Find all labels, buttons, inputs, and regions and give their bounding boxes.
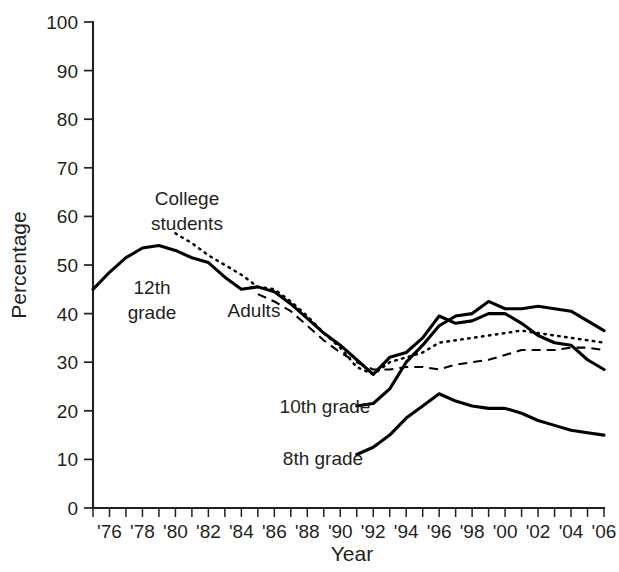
- x-tick-label: '98: [460, 521, 485, 542]
- y-tick-label: 40: [57, 304, 78, 325]
- y-tick-label: 50: [57, 255, 78, 276]
- y-tick-label: 70: [57, 158, 78, 179]
- chart-container: 0102030405060708090100 '76'78'80'82'84'8…: [0, 0, 619, 572]
- x-tick-label: '94: [394, 521, 419, 542]
- y-axis-title: Percentage: [7, 211, 30, 318]
- x-tick-label: '80: [163, 521, 188, 542]
- x-tick-label: '78: [130, 521, 155, 542]
- x-tick-label: '02: [526, 521, 551, 542]
- x-tick-label: '96: [427, 521, 452, 542]
- x-tick-label: '86: [262, 521, 287, 542]
- x-tick-label: '04: [559, 521, 584, 542]
- y-tick-label: 60: [57, 206, 78, 227]
- y-tick-label: 100: [46, 12, 78, 33]
- x-tick-label: '06: [592, 521, 617, 542]
- y-tick-label: 90: [57, 61, 78, 82]
- x-tick-label: '76: [97, 521, 122, 542]
- x-tick-label: '90: [328, 521, 353, 542]
- line-chart: 0102030405060708090100 '76'78'80'82'84'8…: [0, 0, 619, 572]
- y-tick-label: 10: [57, 449, 78, 470]
- annotation-adults: Adults: [228, 300, 281, 321]
- x-tick-label: '84: [229, 521, 254, 542]
- x-tick-label: '82: [196, 521, 221, 542]
- annotation-tenth-grade: 10th grade: [280, 396, 371, 417]
- y-tick-label: 80: [57, 109, 78, 130]
- x-tick-label: '00: [493, 521, 518, 542]
- x-tick-label: '88: [295, 521, 320, 542]
- y-tick-label: 20: [57, 401, 78, 422]
- x-axis-title: Year: [331, 542, 373, 565]
- y-tick-label: 0: [67, 498, 78, 519]
- annotation-eighth-grade: 8th grade: [283, 448, 363, 469]
- y-tick-label: 30: [57, 352, 78, 373]
- x-tick-label: '92: [361, 521, 386, 542]
